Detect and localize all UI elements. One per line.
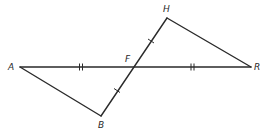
label-F: F xyxy=(125,54,131,64)
label-R: R xyxy=(254,62,260,72)
label-H: H xyxy=(163,4,170,14)
geometry-diagram: A B F H R xyxy=(0,0,265,137)
segment-AB xyxy=(20,67,101,116)
diagram-svg: A B F H R xyxy=(0,0,265,137)
label-A: A xyxy=(7,62,14,72)
segment-HR xyxy=(167,18,251,67)
label-B: B xyxy=(98,120,104,130)
